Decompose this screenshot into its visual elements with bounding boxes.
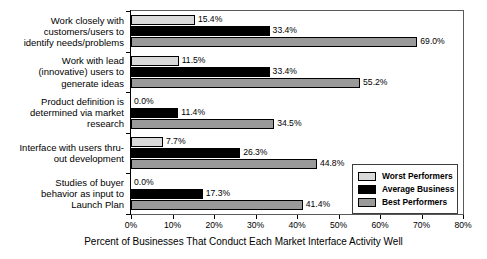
bar-group: 0.0%11.4%34.5% — [131, 97, 463, 129]
bar-value-label: 33.4% — [273, 66, 297, 77]
bar-row: 15.4% — [131, 15, 463, 25]
bar[interactable] — [131, 137, 163, 147]
y-axis-category-labels: Work closely withcustomers/users toident… — [0, 10, 128, 215]
bar-value-label: 55.2% — [363, 77, 387, 88]
bar[interactable] — [131, 148, 240, 158]
x-axis-tick-label: 20% — [205, 220, 222, 231]
y-axis-category-label: Interface with users thru-out developmen… — [0, 142, 124, 164]
bar-value-label: 41.4% — [306, 199, 330, 210]
bar-row: 0.0% — [131, 97, 463, 107]
y-axis-tick — [126, 92, 130, 93]
y-axis-tick — [126, 173, 130, 174]
bar-value-label: 33.4% — [273, 25, 297, 36]
y-axis-tick — [126, 133, 130, 134]
y-axis-category-label: Product definition isdetermined via mark… — [0, 96, 124, 130]
bar-value-label: 11.4% — [181, 107, 205, 118]
x-axis-tick-label: 50% — [330, 220, 347, 231]
bar-row: 33.4% — [131, 26, 463, 36]
bar-row: 11.4% — [131, 108, 463, 118]
bar-value-label: 69.0% — [420, 36, 444, 47]
bar-row: 7.7% — [131, 137, 463, 147]
bar[interactable] — [131, 15, 195, 25]
y-axis-tick — [126, 52, 130, 53]
x-axis-tick-label: 10% — [164, 220, 181, 231]
bar[interactable] — [131, 78, 360, 88]
x-axis-tick-label: 40% — [288, 220, 305, 231]
bar[interactable] — [131, 189, 203, 199]
bar-value-label: 44.8% — [320, 158, 344, 169]
y-axis-tick — [126, 11, 130, 12]
legend-item[interactable]: Average Business — [358, 183, 452, 195]
x-axis-title: Percent of Businesses That Conduct Each … — [0, 236, 487, 248]
legend-swatch — [358, 198, 376, 207]
bar[interactable] — [131, 56, 179, 66]
bar-group: 11.5%33.4%55.2% — [131, 56, 463, 88]
bar[interactable] — [131, 119, 274, 129]
legend-item[interactable]: Best Performers — [358, 196, 452, 208]
bar-value-label: 11.5% — [182, 55, 206, 66]
x-axis-tick — [256, 215, 257, 219]
bar-value-label: 0.0% — [134, 96, 154, 107]
y-axis-category-label: Studies of buyerbehavior as input toLaun… — [0, 177, 124, 211]
bar-group: 15.4%33.4%69.0% — [131, 15, 463, 47]
legend-item[interactable]: Worst Performers — [358, 170, 452, 182]
x-axis-tick — [297, 215, 298, 219]
bar-row: 11.5% — [131, 56, 463, 66]
x-axis-tick — [173, 215, 174, 219]
x-axis-tick — [380, 215, 381, 219]
bar-row: 26.3% — [131, 148, 463, 158]
bar-value-label: 17.3% — [206, 188, 230, 199]
legend-label: Best Performers — [382, 197, 447, 207]
x-axis-tick — [422, 215, 423, 219]
legend-swatch — [358, 172, 376, 181]
legend-label: Average Business — [382, 184, 454, 194]
bar-value-label: 15.4% — [198, 14, 222, 25]
bar[interactable] — [131, 159, 317, 169]
x-axis-tick-label: 70% — [413, 220, 430, 231]
x-axis-tick-label: 60% — [371, 220, 388, 231]
bar-row: 69.0% — [131, 37, 463, 47]
bar-chart: Work closely withcustomers/users toident… — [0, 0, 487, 259]
x-axis-tick-label: 80% — [454, 220, 471, 231]
bar[interactable] — [131, 67, 270, 77]
bar-value-label: 26.3% — [243, 147, 267, 158]
x-axis-tick-label: 30% — [247, 220, 264, 231]
legend-swatch — [358, 185, 376, 194]
bar-row: 34.5% — [131, 119, 463, 129]
bar[interactable] — [131, 37, 417, 47]
bar-row: 33.4% — [131, 67, 463, 77]
bar-row: 55.2% — [131, 78, 463, 88]
bar[interactable] — [131, 200, 303, 210]
x-axis-tick — [131, 215, 132, 219]
x-axis-ticks: 0%10%20%30%40%50%60%70%80% — [130, 215, 464, 233]
bar-value-label: 34.5% — [277, 118, 301, 129]
x-axis-tick — [463, 215, 464, 219]
x-axis-tick-label: 0% — [125, 220, 137, 231]
bar[interactable] — [131, 26, 270, 36]
chart-legend: Worst PerformersAverage BusinessBest Per… — [352, 164, 458, 214]
bar-value-label: 7.7% — [166, 136, 186, 147]
bar-value-label: 0.0% — [134, 177, 154, 188]
y-axis-category-label: Work with lead(innovative) users togener… — [0, 55, 124, 89]
y-axis-line — [130, 10, 131, 215]
x-axis-tick — [339, 215, 340, 219]
y-axis-category-label: Work closely withcustomers/users toident… — [0, 15, 124, 49]
bar[interactable] — [131, 108, 178, 118]
x-axis-tick — [214, 215, 215, 219]
legend-label: Worst Performers — [382, 171, 453, 181]
